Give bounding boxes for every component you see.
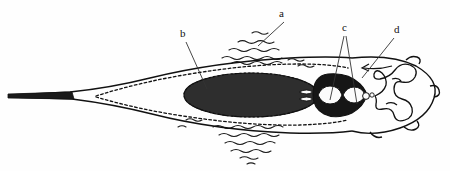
- anatomical-illustration: [0, 0, 450, 171]
- label-c: c: [342, 22, 347, 33]
- label-d: d: [394, 24, 400, 35]
- label-b: b: [180, 28, 186, 39]
- figure-root: a b c d: [0, 0, 450, 171]
- label-a: a: [279, 8, 284, 19]
- dark-yolk-mass: [184, 73, 318, 117]
